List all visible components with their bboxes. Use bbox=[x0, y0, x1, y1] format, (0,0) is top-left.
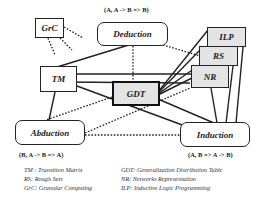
abduction-formula: (B, A -> B => A) bbox=[19, 151, 63, 158]
node-ilp-label: ILP bbox=[219, 32, 234, 42]
node-abduction-label: Abduction bbox=[31, 128, 70, 138]
legend-ilp: ILP: Inductive Logic Programming bbox=[121, 183, 222, 192]
legend-nr: NR: Networks Representation bbox=[121, 174, 222, 183]
node-gdt: GDT bbox=[112, 81, 160, 106]
node-induction: Induction bbox=[180, 122, 250, 147]
node-abduction: Abduction bbox=[15, 120, 85, 145]
legend-grc: GrC: Granular Computing bbox=[24, 183, 92, 192]
deduction-formula: (A, A -> B => B) bbox=[104, 6, 149, 13]
node-tm: TM bbox=[40, 66, 77, 92]
node-grc-label: GrC bbox=[41, 23, 57, 33]
legend-right: GDT: Generalization Distribution Table N… bbox=[121, 165, 222, 192]
legend-tm: TM : Transition Matrix bbox=[24, 165, 92, 174]
node-grc: GrC bbox=[35, 18, 64, 38]
node-gdt-label: GDT bbox=[127, 89, 146, 99]
node-nr: NR bbox=[191, 65, 229, 88]
legend-rs: RS: Rough Sets bbox=[24, 174, 92, 183]
node-deduction-label: Deduction bbox=[113, 29, 152, 39]
legend-gdt: GDT: Generalization Distribution Table bbox=[121, 165, 222, 174]
node-induction-label: Induction bbox=[197, 130, 234, 140]
node-ilp: ILP bbox=[207, 27, 246, 47]
node-deduction: Deduction bbox=[97, 22, 168, 46]
node-nr-label: NR bbox=[204, 72, 217, 82]
node-rs-label: RS bbox=[213, 51, 224, 61]
node-rs: RS bbox=[199, 46, 238, 66]
induction-formula: (A, B => A -> B) bbox=[188, 151, 233, 158]
legend-left: TM : Transition Matrix RS: Rough Sets Gr… bbox=[24, 165, 92, 192]
node-tm-label: TM bbox=[52, 74, 66, 84]
